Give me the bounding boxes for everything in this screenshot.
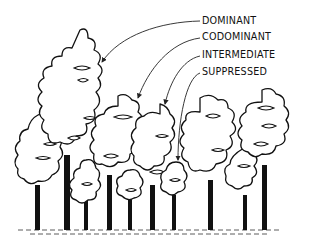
leader-dominant [102,21,200,62]
label-dominant: DOMINANT [202,15,256,26]
label-intermediate: INTERMEDIATE [202,49,275,60]
tree-suppressed-left [69,160,100,230]
leader-codominant [138,38,200,98]
ground-line [18,230,280,234]
tree-suppressed-center [117,170,143,230]
tree-codominant-right [180,95,236,230]
tree-intermediate-right [225,148,257,230]
tree-suppressed [161,162,187,230]
leader-intermediate [165,56,200,104]
label-codominant: CODOMINANT [202,31,271,42]
label-suppressed: SUPPRESSED [202,66,267,77]
